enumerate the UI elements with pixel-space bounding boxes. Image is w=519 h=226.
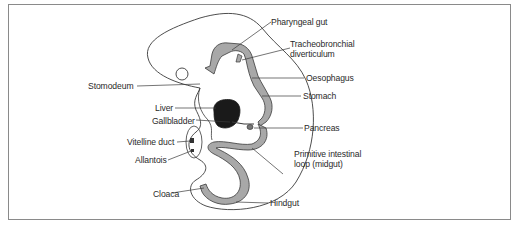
vitelline-duct-marker xyxy=(190,138,194,143)
pancreas-bud xyxy=(247,125,253,130)
allantois-marker xyxy=(191,149,194,152)
label-vitelline-duct: Vitelline duct xyxy=(127,137,174,147)
label-gallbladder: Gallbladder xyxy=(152,116,195,126)
label-allantois: Allantois xyxy=(135,155,167,165)
label-tracheobronchial-line2: diverticulum xyxy=(290,49,335,59)
label-stomach: Stomach xyxy=(303,91,336,101)
label-pharyngeal-gut: Pharyngeal gut xyxy=(271,17,327,27)
label-primitive-intestinal-line1: Primitive intestinal xyxy=(294,149,361,159)
tracheobronchial-bud xyxy=(236,54,242,62)
label-tracheobronchial-line1: Tracheobronchial xyxy=(290,39,354,49)
otic-vesicle xyxy=(176,68,188,80)
label-primitive-intestinal-line2: loop (midgut) xyxy=(294,159,343,169)
liver xyxy=(214,100,240,129)
label-cloaca: Cloaca xyxy=(153,189,179,199)
label-stomodeum: Stomodeum xyxy=(88,81,133,91)
midgut-hindgut xyxy=(200,124,267,204)
label-oesophagus: Oesophagus xyxy=(306,73,354,83)
label-pancreas: Pancreas xyxy=(304,123,340,133)
label-hindgut: Hindgut xyxy=(270,198,299,208)
label-liver: Liver xyxy=(155,103,173,113)
embryo-diagram xyxy=(0,0,519,226)
